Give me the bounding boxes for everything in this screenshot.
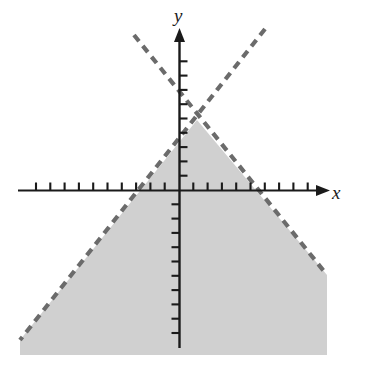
x-axis-arrowhead bbox=[316, 185, 330, 196]
plot-canvas bbox=[0, 0, 365, 377]
x-axis-label: x bbox=[332, 183, 340, 202]
graph-figure: x y bbox=[0, 0, 365, 377]
y-axis-arrowhead bbox=[174, 28, 185, 42]
y-axis-label: y bbox=[174, 6, 182, 25]
